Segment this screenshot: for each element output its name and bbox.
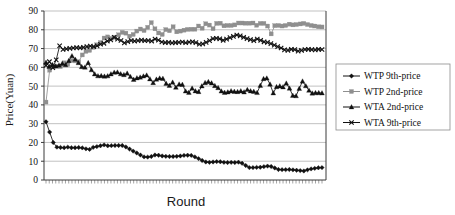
data-point-square [142,29,146,33]
data-point-square [295,23,299,27]
data-point-square [258,21,262,25]
data-point-square [287,22,291,26]
y-tick-label: 40 [29,100,39,110]
data-point-square [269,32,273,36]
y-tick-label: 80 [29,25,39,35]
data-point-square [255,23,259,27]
data-point-square [233,23,237,27]
data-point-square [131,32,135,36]
data-point-square [218,21,222,25]
y-tick-label: 20 [29,138,39,148]
data-point-square [117,33,121,37]
data-point-square [167,29,171,33]
y-axis-title: Price(Yuan) [3,73,16,126]
data-point-square [280,24,284,28]
data-point-square [273,24,277,28]
data-point-square [138,27,142,31]
x-axis-ticks-group [46,180,322,184]
price-round-line-chart: 0102030405060708090 Price(Yuan) Round WT… [0,0,455,215]
data-point-square [149,21,153,25]
data-point-square [215,21,219,25]
data-point-square [291,23,295,27]
data-point-square [44,100,48,104]
data-point-square [189,27,193,31]
data-point-square [88,48,92,52]
data-point-square [128,34,132,38]
x-axis-title: Round [167,194,205,209]
data-point-square [226,23,230,27]
data-point-square [153,27,157,31]
legend-label[interactable]: WTA 9th-price [364,118,421,128]
data-point-square [124,31,128,35]
data-point-square [247,21,251,25]
data-point-square [211,27,215,31]
data-point-square [164,28,168,32]
data-point-square [135,29,139,33]
data-point-square [309,23,313,27]
data-point-square [186,27,190,31]
data-point-square [240,21,244,25]
legend-label[interactable]: WTP 2nd-price [364,87,422,97]
y-axis-ticks-group: 0102030405060708090 [29,6,39,185]
y-tick-label: 0 [33,175,38,185]
data-point-square [197,24,201,28]
data-point-square [236,21,240,25]
data-point-square [320,25,324,29]
y-tick-label: 60 [29,63,39,73]
data-point-square [207,23,211,27]
chart-figure: 0102030405060708090 Price(Yuan) Round WT… [0,0,455,215]
data-point-square [313,24,317,28]
y-tick-label: 70 [29,44,39,54]
data-point-square [262,21,266,25]
data-point-square [193,27,197,31]
data-point-square [182,28,186,32]
data-point-square [160,32,164,36]
data-point-square [120,30,124,34]
y-tick-label: 50 [29,82,39,92]
data-point-square [80,53,84,57]
data-point-square [204,22,208,26]
data-point-square [222,24,226,28]
data-point-square [84,49,88,53]
data-point-square [244,21,248,25]
data-point-square [229,23,233,27]
data-point-square [266,24,270,28]
y-tick-label: 10 [29,157,39,167]
data-point-square [284,23,288,27]
data-point-square [171,25,175,29]
data-point-square [302,21,306,25]
data-point-square [200,26,204,30]
y-tick-label: 30 [29,119,39,129]
data-point-square [350,90,354,94]
legend-label[interactable]: WTA 2nd-price [364,102,423,112]
data-point-square [305,23,309,27]
data-point-square [276,23,280,27]
data-point-square [146,25,150,29]
data-point-square [298,22,302,26]
y-tick-label: 90 [29,6,39,16]
legend-label[interactable]: WTP 9th-price [364,71,420,81]
data-point-square [157,31,161,35]
data-point-square [316,25,320,29]
data-point-square [251,21,255,25]
chart-legend: WTP 9th-priceWTP 2nd-priceWTA 2nd-priceW… [336,64,450,130]
data-point-square [178,29,182,33]
data-point-square [175,30,179,34]
